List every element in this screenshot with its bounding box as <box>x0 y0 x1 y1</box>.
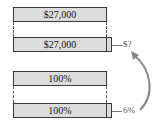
curved-arrow-icon <box>0 0 161 128</box>
